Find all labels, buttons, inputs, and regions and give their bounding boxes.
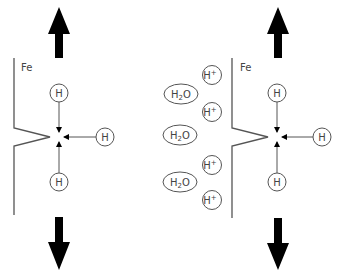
svg-text:H: H [273,177,281,188]
fe-surface-with-crack [14,58,50,215]
water-molecule: H2O [163,172,197,192]
tension-arrow-down-icon [48,217,70,270]
right-panel: Fe H+ H+ H+ H+ H2O H2O H2O [163,7,331,270]
hydrogen-atom: H [268,173,286,191]
fe-label: Fe [240,62,251,73]
svg-text:H: H [55,88,63,99]
svg-text:H: H [318,132,326,143]
water-molecule: H2O [163,125,197,145]
hydrogen-atom: H [313,128,331,146]
proton-ion: H+ [203,156,222,175]
fe-label: Fe [21,62,32,73]
hydrogen-atom: H [268,84,286,102]
left-panel: Fe H H H [14,7,114,270]
diagram-svg: Fe H H H Fe H+ H+ [0,0,341,278]
diagram-canvas: Fe H H H Fe H+ H+ [0,0,341,278]
hydrogen-atom: H [96,128,114,146]
svg-text:H: H [101,132,109,143]
tension-arrow-up-icon [48,7,70,58]
tension-arrow-down-icon [267,218,289,270]
proton-ion: H+ [203,66,222,85]
water-molecule: H2O [164,84,198,104]
proton-ion: H+ [203,103,222,122]
hydrogen-atom: H [50,173,68,191]
hydrogen-atom: H [50,84,68,102]
fe-surface-with-crack [232,58,268,218]
svg-text:H: H [273,88,281,99]
tension-arrow-up-icon [267,7,289,58]
proton-ion: H+ [203,191,222,210]
svg-text:H: H [55,177,63,188]
